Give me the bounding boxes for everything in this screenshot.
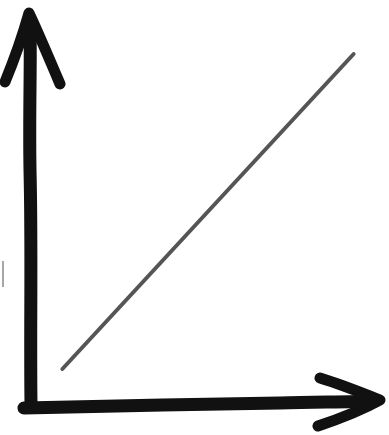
y-axis [5, 13, 60, 404]
x-axis-line [24, 401, 375, 408]
series-line-0 [62, 54, 353, 369]
y-axis-line [30, 28, 31, 404]
x-axis [24, 378, 380, 426]
line-chart [0, 0, 389, 435]
series-layer [62, 54, 353, 369]
